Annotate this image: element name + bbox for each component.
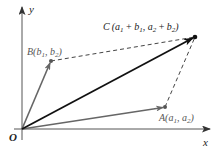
point-b <box>49 59 53 63</box>
x-axis-label: x <box>202 136 208 148</box>
point-a <box>163 105 167 109</box>
origin-label: O <box>9 131 17 143</box>
vector-b <box>22 63 50 129</box>
point-b-label: B(b1, b2) <box>27 46 62 59</box>
point-c-label: C(a1 + b1, a2 + b2) <box>103 21 179 34</box>
point-c <box>193 35 198 40</box>
vector-addition-diagram: y x O B(b1, b2) A(a1, a2) C(a1 + b1, a2 … <box>0 0 216 151</box>
dashed-edge-a-to-c <box>165 37 195 107</box>
point-a-label: A(a1, a2) <box>158 112 194 125</box>
y-axis-label: y <box>28 3 34 15</box>
